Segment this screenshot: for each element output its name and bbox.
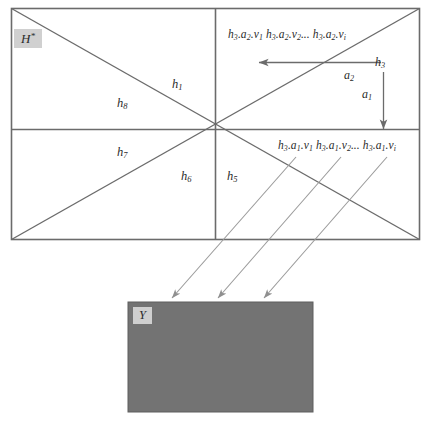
- sequence-label-upper: h3.a2.v1 h3.a2.v2... h3.a2.vi: [228, 29, 346, 42]
- region-label-h6: h6: [181, 170, 192, 184]
- seq-upper-ellipsis: ...: [301, 28, 310, 40]
- seq-lower-item-3: h3.a1.vi: [363, 139, 396, 151]
- figure-canvas: H* Y h3.a2.v1 h3.a2.v2... h3.a2.vi h3.a1…: [0, 0, 432, 430]
- seq-upper-item-1: h3.a2.v1: [228, 28, 263, 40]
- seq-lower-item-1: h3.a1.v1: [278, 139, 313, 151]
- region-label-h7: h7: [117, 146, 128, 160]
- arrow-label-h3: h3: [375, 56, 385, 70]
- seq-lower-item-2: h3.a1.v2: [316, 139, 351, 151]
- region-label-h8: h8: [117, 97, 128, 111]
- output-rectangle-label-text: Y: [139, 308, 146, 322]
- seq-lower-ellipsis: ...: [351, 139, 360, 151]
- region-label-h1: h1: [172, 78, 183, 92]
- sequence-label-lower: h3.a1.v1 h3.a1.v2... h3.a1.vi: [278, 140, 396, 153]
- figure-vector-layer: [0, 0, 432, 430]
- seq-upper-item-2: h3.a2.v2: [266, 28, 301, 40]
- arrow-label-a1: a1: [362, 88, 372, 102]
- region-label-h5: h5: [227, 170, 238, 184]
- main-rectangle-label-base: H: [21, 31, 30, 46]
- seq-upper-item-3: h3.a2.vi: [313, 28, 346, 40]
- arrow-label-a2: a2: [344, 69, 354, 83]
- output-rectangle-label: Y: [133, 307, 152, 324]
- main-rectangle-label-superscript: *: [30, 31, 35, 41]
- main-rectangle-label: H*: [14, 29, 42, 48]
- output-rectangle: [128, 302, 313, 412]
